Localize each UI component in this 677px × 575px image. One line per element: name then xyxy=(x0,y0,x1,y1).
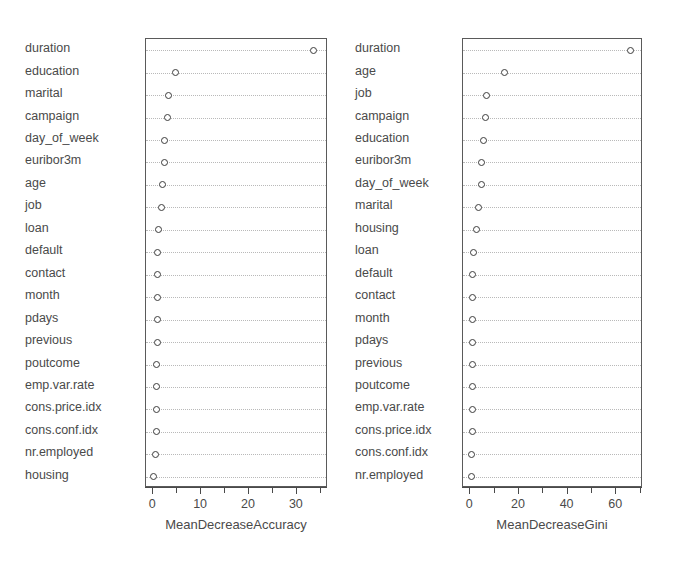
variable-label: emp.var.rate xyxy=(355,401,475,414)
data-point xyxy=(627,47,634,54)
x-axis-title-gini: MeanDecreaseGini xyxy=(462,517,642,532)
gridline xyxy=(463,477,641,478)
axis-tick-label: 60 xyxy=(608,497,622,511)
panel-mean-decrease-accuracy: durationeducationmaritalcampaignday_of_w… xyxy=(0,0,338,575)
gridline xyxy=(146,50,326,51)
axis-tick-major xyxy=(469,487,470,494)
axis-tick-minor xyxy=(176,487,177,493)
axis-tick-minor xyxy=(542,487,543,493)
axis-tick-label: 40 xyxy=(560,497,574,511)
data-point xyxy=(154,316,161,323)
data-point xyxy=(469,294,476,301)
axis-tick-label: 0 xyxy=(149,497,156,511)
variable-label: day_of_week xyxy=(355,177,475,190)
variable-label: marital xyxy=(25,87,145,100)
axis-tick-label: 20 xyxy=(241,497,255,511)
variable-label: campaign xyxy=(25,110,145,123)
variable-label: education xyxy=(25,65,145,78)
variable-label: poutcome xyxy=(355,379,475,392)
variable-label: cons.conf.idx xyxy=(355,446,475,459)
data-point xyxy=(153,361,160,368)
data-point xyxy=(164,114,171,121)
data-point xyxy=(154,271,161,278)
gridline xyxy=(146,275,326,276)
gridline xyxy=(463,365,641,366)
variable-importance-figure: durationeducationmaritalcampaignday_of_w… xyxy=(0,0,677,575)
data-point xyxy=(152,451,159,458)
gridline xyxy=(146,140,326,141)
gridline xyxy=(463,409,641,410)
plot-area-accuracy xyxy=(145,38,327,487)
gridline xyxy=(463,207,641,208)
variable-label-list-accuracy: durationeducationmaritalcampaignday_of_w… xyxy=(25,38,145,487)
data-point xyxy=(172,69,179,76)
variable-label: education xyxy=(355,132,475,145)
gridline xyxy=(463,454,641,455)
gridline xyxy=(146,230,326,231)
gridline xyxy=(463,297,641,298)
data-point xyxy=(469,383,476,390)
variable-label: day_of_week xyxy=(25,132,145,145)
axis-tick-minor xyxy=(640,487,641,493)
axis-tick-label: 30 xyxy=(289,497,303,511)
data-point xyxy=(480,137,487,144)
gridline xyxy=(463,185,641,186)
gridline xyxy=(146,365,326,366)
gridline xyxy=(146,454,326,455)
variable-label: pdays xyxy=(25,312,145,325)
gridline xyxy=(463,162,641,163)
gridline xyxy=(146,118,326,119)
axis-tick-minor xyxy=(272,487,273,493)
data-point xyxy=(468,451,475,458)
axis-tick-label: 20 xyxy=(511,497,525,511)
variable-label: marital xyxy=(355,199,475,212)
gridline xyxy=(463,50,641,51)
variable-label: nr.employed xyxy=(25,446,145,459)
variable-label: nr.employed xyxy=(355,469,475,482)
variable-label: job xyxy=(25,199,145,212)
gridline xyxy=(146,477,326,478)
axis-tick-major xyxy=(518,487,519,494)
variable-label: loan xyxy=(355,244,475,257)
variable-label: duration xyxy=(25,42,145,55)
gridline xyxy=(146,252,326,253)
gridline xyxy=(463,252,641,253)
data-point xyxy=(153,428,160,435)
data-point xyxy=(470,249,477,256)
variable-label: contact xyxy=(25,267,145,280)
variable-label: month xyxy=(25,289,145,302)
gridline xyxy=(463,387,641,388)
variable-label: age xyxy=(25,177,145,190)
axis-tick-major xyxy=(567,487,568,494)
gridline xyxy=(146,432,326,433)
data-point xyxy=(478,159,485,166)
axis-tick-label: 0 xyxy=(466,497,473,511)
panel-mean-decrease-gini: durationagejobcampaigneducationeuribor3m… xyxy=(317,0,655,575)
data-point xyxy=(154,294,161,301)
variable-label: cons.price.idx xyxy=(355,424,475,437)
data-point xyxy=(482,114,489,121)
variable-label: housing xyxy=(25,469,145,482)
gridline xyxy=(463,320,641,321)
variable-label: contact xyxy=(355,289,475,302)
data-point xyxy=(154,339,161,346)
data-point xyxy=(150,473,157,480)
data-point xyxy=(161,137,168,144)
variable-label: poutcome xyxy=(25,357,145,370)
data-point xyxy=(468,473,475,480)
variable-label: default xyxy=(25,244,145,257)
data-point xyxy=(155,226,162,233)
data-point xyxy=(161,159,168,166)
variable-label: cons.conf.idx xyxy=(25,424,145,437)
variable-label: loan xyxy=(25,222,145,235)
axis-tick-minor xyxy=(494,487,495,493)
data-point xyxy=(469,428,476,435)
axis-tick-major xyxy=(248,487,249,494)
axis-tick-major xyxy=(296,487,297,494)
variable-label: campaign xyxy=(355,110,475,123)
data-point xyxy=(153,383,160,390)
gridline xyxy=(463,275,641,276)
data-point xyxy=(159,181,166,188)
data-point xyxy=(478,181,485,188)
gridline xyxy=(146,297,326,298)
